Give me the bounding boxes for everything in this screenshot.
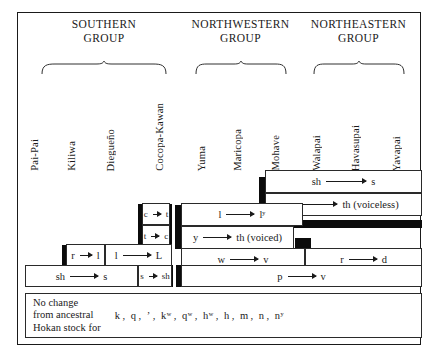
arrow-icon (70, 276, 98, 277)
change-to: v (262, 254, 269, 265)
change-to: l (96, 250, 101, 261)
arrow-icon (149, 276, 157, 277)
change-to: L (155, 250, 163, 261)
language-label-yuma: Yuma (196, 146, 207, 171)
language-label-maricopa: Maricopa (232, 129, 243, 171)
change-from: r (339, 254, 345, 265)
change-to: c (163, 231, 169, 241)
phoneme-separator: , (265, 310, 272, 321)
arrow-icon (153, 214, 161, 215)
group-title-southern: SOUTHERN GROUP (41, 18, 167, 45)
arrow-icon (123, 255, 151, 256)
arrow-icon (297, 204, 337, 205)
change-to: d (381, 254, 388, 265)
change-box-sh-to-s-northeastern[interactable]: sh s (265, 170, 422, 193)
language-label-kiliwa: Kiliwa (66, 141, 77, 171)
change-box-c-to-t[interactable]: c t (142, 203, 170, 225)
change-to: t (165, 209, 170, 219)
change-box-l-to-ly[interactable]: l lʸ (181, 203, 303, 226)
change-to: th (voiced) (235, 232, 283, 243)
language-label-pai-pai: Pai-Pai (29, 139, 40, 171)
change-to: s (102, 271, 108, 282)
no-change-box[interactable]: No change from ancestral Hokan stock for… (25, 293, 422, 338)
change-from: s (139, 271, 145, 281)
arrow-icon (326, 181, 366, 182)
phoneme: n (259, 310, 265, 321)
change-box-y-to-th-voiced[interactable]: y th (voiced) (181, 226, 294, 249)
language-label-havasupai: Havasupai (350, 125, 361, 171)
change-from: y (192, 232, 199, 243)
change-box-s-to-sh[interactable]: s sh (138, 265, 172, 287)
language-label-cocopa-kawan: Cocopa-Kawan (154, 103, 165, 171)
no-change-phoneme-list: k, q, ʼ, kʷ, qʷ, hʷ, h, m, n, nʸ (101, 310, 285, 321)
phoneme-separator: , (214, 310, 221, 321)
change-to: s (370, 176, 376, 187)
change-from: l (114, 250, 119, 261)
change-box-r-to-l[interactable]: r l (66, 244, 105, 267)
no-change-label: No change from ancestral Hokan stock for (26, 297, 101, 334)
arrow-icon (80, 255, 92, 256)
group-title-northeastern: NORTHEASTERN GROUP (306, 18, 411, 45)
language-label-walapai: Walapai (311, 135, 322, 171)
change-from: t (143, 231, 148, 241)
language-label-mohave: Mohave (270, 135, 281, 171)
arrow-icon (349, 259, 377, 260)
phoneme-separator: , (136, 310, 143, 321)
change-from: sh (311, 176, 322, 187)
change-to: sh (161, 271, 171, 281)
sound-change-figure: SOUTHERN GROUP NORTHWESTERN GROUP NORTHE… (0, 0, 438, 357)
change-from: w (217, 254, 227, 265)
phoneme: hʷ (203, 310, 214, 321)
phoneme-separator: , (230, 310, 237, 321)
arrow-icon (203, 237, 231, 238)
brace-southern (41, 61, 167, 75)
phoneme-separator: , (151, 310, 158, 321)
phoneme: h (224, 310, 230, 321)
arrow-icon (230, 259, 258, 260)
group-title-northwestern: NORTHWESTERN GROUP (188, 18, 293, 45)
change-to: lʸ (258, 209, 266, 220)
phoneme: qʷ (182, 310, 193, 321)
change-from: c (143, 209, 149, 219)
arrow-icon (288, 276, 316, 277)
change-from: sh (55, 271, 66, 282)
phoneme-separator: , (120, 310, 127, 321)
language-label-diegueno: Diegueño (105, 129, 116, 171)
change-to: th (voiceless) (341, 199, 399, 210)
brace-northeastern (313, 61, 405, 75)
change-box-p-to-v[interactable]: p v (181, 265, 422, 287)
brace-northwestern (195, 61, 287, 75)
change-box-l-to-L[interactable]: l L (105, 244, 172, 267)
arrow-icon (151, 236, 159, 237)
change-to: v (320, 271, 327, 282)
change-from: p (276, 271, 283, 282)
change-from: l (218, 209, 223, 220)
phoneme: m (240, 310, 249, 321)
phoneme: kʷ (161, 310, 172, 321)
phoneme: nʸ (275, 310, 284, 321)
phoneme-separator: , (172, 310, 179, 321)
change-from: r (70, 250, 76, 261)
phoneme-separator: , (249, 310, 256, 321)
phoneme-separator: , (193, 310, 200, 321)
change-box-sh-to-s-southern[interactable]: sh s (25, 265, 138, 287)
language-label-yavapai: Yavapai (391, 136, 402, 171)
arrow-icon (226, 214, 254, 215)
